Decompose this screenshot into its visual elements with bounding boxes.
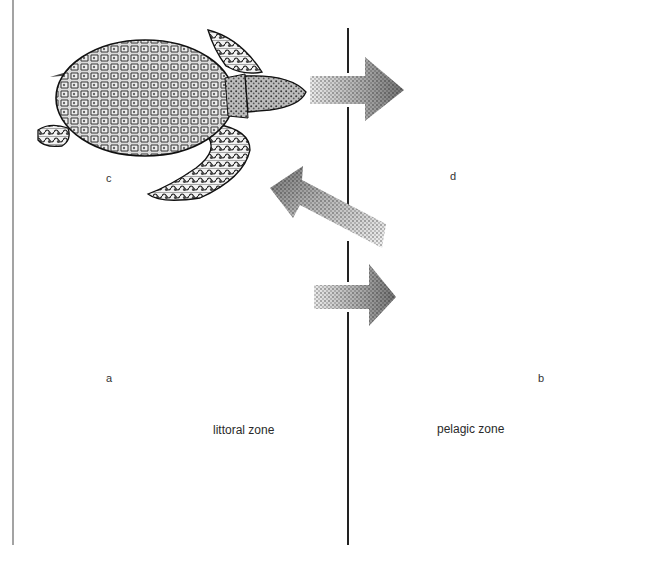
turtle-c-label: c <box>106 173 112 184</box>
turtle-a-label: a <box>106 373 112 384</box>
littoral-zone-label: littoral zone <box>213 424 274 436</box>
pelagic-zone-label: pelagic zone <box>437 423 504 435</box>
turtle-d-label: d <box>450 171 456 182</box>
arrow-c-to-d <box>310 57 404 121</box>
arrow-b-to-c <box>270 166 386 248</box>
arrow-a-to-b <box>314 264 396 326</box>
turtle-habitat-diagram: littoral zone pelagic zone c d a b <box>0 0 663 578</box>
turtle-b-label: b <box>538 373 544 384</box>
turtle-c-illustration <box>38 30 306 200</box>
